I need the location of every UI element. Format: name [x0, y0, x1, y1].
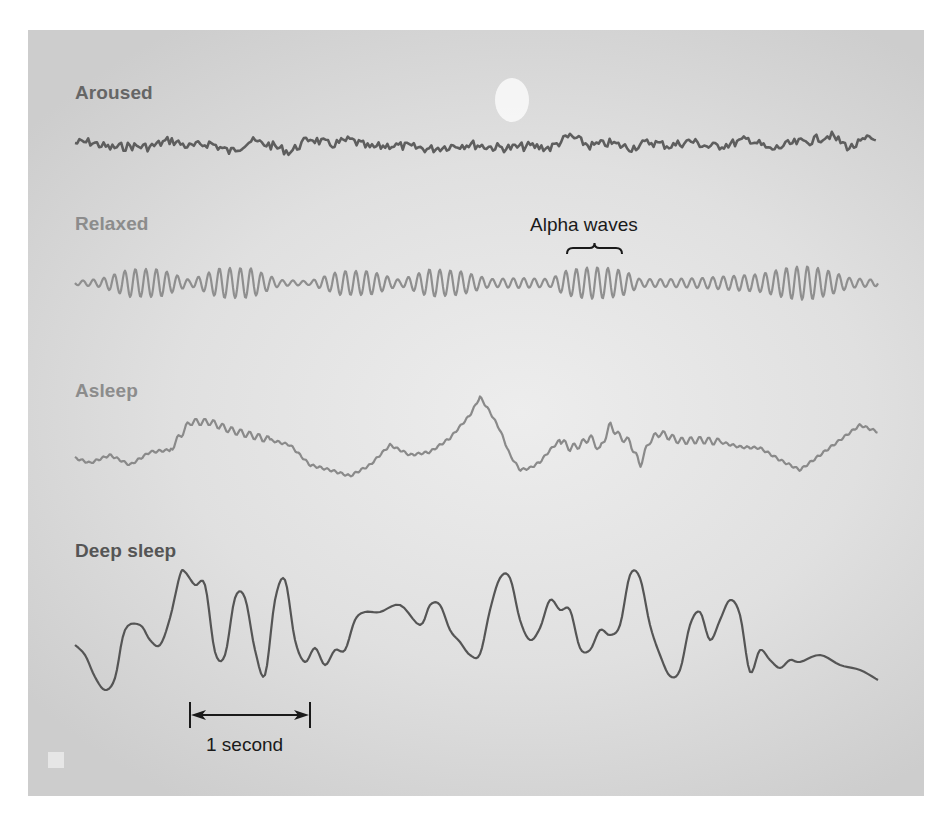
moon-icon [495, 78, 529, 122]
waveform-relaxed [75, 267, 878, 300]
label-asleep: Asleep [75, 380, 138, 402]
label-relaxed: Relaxed [75, 213, 149, 235]
waveform-aroused [75, 132, 876, 155]
eeg-waveforms [0, 0, 950, 823]
scale-bar [190, 702, 310, 728]
alpha-waves-annotation: Alpha waves [530, 214, 638, 236]
label-deep-sleep: Deep sleep [75, 540, 176, 562]
alpha-waves-bracket [567, 243, 622, 254]
waveform-asleep [75, 397, 878, 477]
scale-bar-label: 1 second [206, 734, 283, 756]
waveform-deep-sleep [75, 570, 878, 690]
label-aroused: Aroused [75, 82, 153, 104]
